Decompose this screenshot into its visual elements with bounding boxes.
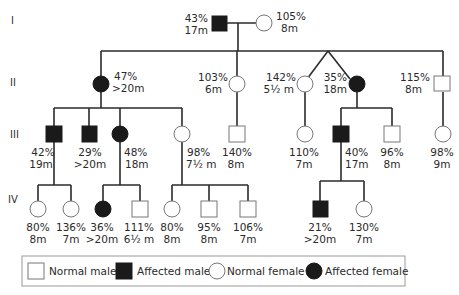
age-label: 7m	[240, 233, 257, 245]
generation-label-III: III	[10, 129, 19, 140]
affected-male-symbol	[333, 126, 349, 142]
individual-II-3: 142% 5½ m	[264, 71, 313, 95]
legend: Normal male Affected male Normal female …	[22, 256, 408, 286]
individual-IV-2: 136% 7m	[56, 201, 86, 245]
normal-female-symbol	[356, 201, 372, 217]
individual-III-3: 48% 18m	[112, 126, 149, 170]
percent-label: 42%	[31, 146, 54, 158]
affected-male-symbol	[46, 126, 62, 142]
individual-III-5: 140% 8m	[222, 126, 252, 170]
percent-label: 105%	[276, 10, 306, 22]
percent-label: 110%	[289, 146, 319, 158]
percent-label: 103%	[198, 71, 228, 83]
individual-II-2: 103% 6m	[198, 71, 245, 95]
percent-label: 21%	[308, 221, 331, 233]
percent-label: 48%	[124, 146, 147, 158]
percent-label: 136%	[56, 221, 86, 233]
normal-female-legend-icon	[209, 263, 225, 279]
age-label: 6½ m	[124, 233, 154, 245]
age-label: >20m	[86, 233, 118, 245]
percent-label: 115%	[400, 71, 430, 83]
individual-II-4: 35% 18m	[323, 71, 365, 95]
percent-label: 142%	[266, 71, 296, 83]
percent-label: 80%	[26, 221, 49, 233]
age-label: >20m	[304, 233, 336, 245]
normal-male-symbol	[229, 126, 245, 142]
normal-male-legend-icon	[28, 263, 44, 279]
affected-male-legend-icon	[116, 263, 132, 279]
percent-label: 130%	[349, 221, 379, 233]
normal-female-symbol	[174, 126, 190, 142]
age-label: 8m	[405, 83, 422, 95]
normal-female-symbol	[30, 201, 46, 217]
affected-female-symbol	[112, 126, 128, 142]
age-label: 7m	[296, 158, 313, 170]
normal-male-symbol	[384, 126, 400, 142]
affected-female-symbol	[349, 76, 365, 92]
affected-female-symbol	[95, 201, 111, 217]
percent-label: 140%	[222, 146, 252, 158]
normal-female-symbol	[435, 126, 451, 142]
affected-female-legend-icon	[306, 263, 322, 279]
percent-label: 98%	[187, 146, 210, 158]
affected-male-symbol	[82, 126, 97, 142]
pedigree-lines	[38, 23, 443, 201]
percent-label: 40%	[345, 146, 368, 158]
percent-label: 43%	[185, 12, 208, 24]
individual-IV-3: 36% >20m	[86, 201, 118, 245]
individual-III-8: 96% 8m	[380, 126, 403, 170]
normal-female-symbol	[229, 76, 245, 92]
individual-IV-9: 130% 7m	[349, 201, 379, 245]
individual-I-2: 105% 8m	[256, 10, 306, 34]
affected-female-symbol	[93, 76, 109, 92]
age-label: 9m	[434, 158, 451, 170]
percent-label: 96%	[380, 146, 403, 158]
age-label: 8m	[164, 233, 181, 245]
individual-III-1: 42% 19m	[29, 126, 62, 170]
age-label: 5½ m	[264, 83, 294, 95]
age-label: 8m	[281, 22, 298, 34]
age-label: 18m	[125, 158, 149, 170]
individual-III-4: 98% 7½ m	[174, 126, 216, 170]
age-label: >20m	[74, 158, 106, 170]
percent-label: 80%	[160, 221, 183, 233]
individual-IV-5: 80% 8m	[160, 201, 183, 245]
normal-female-symbol	[297, 76, 313, 92]
legend-normal-female: Normal female	[227, 265, 305, 277]
affected-male-symbol	[313, 201, 328, 217]
normal-male-symbol	[201, 201, 217, 217]
legend-normal-male: Normal male	[49, 265, 116, 277]
individual-IV-8: 21% >20m	[304, 201, 336, 245]
individual-III-9: 98% 9m	[430, 126, 453, 170]
normal-female-symbol	[297, 126, 313, 142]
normal-male-symbol	[132, 201, 148, 217]
percent-label: 36%	[90, 221, 113, 233]
pedigree-diagram: I II III IV	[0, 0, 459, 295]
legend-affected-male: Affected male	[137, 265, 210, 277]
age-label: 18m	[323, 83, 347, 95]
age-label: 8m	[384, 158, 401, 170]
individual-IV-4: 111% 6½ m	[124, 201, 154, 245]
individual-III-2: 29% >20m	[74, 126, 106, 170]
generation-label-II: II	[10, 77, 16, 88]
individual-I-1: 43% 17m	[184, 12, 227, 36]
normal-male-symbol	[434, 76, 450, 91]
normal-female-symbol	[256, 15, 272, 31]
age-label: 7½ m	[186, 158, 216, 170]
individual-III-7: 40% 17m	[333, 126, 369, 170]
individual-IV-7: 106% 7m	[233, 201, 263, 245]
normal-female-symbol	[63, 201, 79, 217]
normal-female-symbol	[164, 201, 180, 217]
age-label: 6m	[205, 83, 222, 95]
age-label: 17m	[184, 24, 208, 36]
individual-IV-1: 80% 8m	[26, 201, 49, 245]
age-label: 8m	[228, 158, 245, 170]
legend-affected-female: Affected female	[325, 265, 408, 277]
individual-IV-6: 95% 8m	[197, 201, 220, 245]
percent-label: 98%	[430, 146, 453, 158]
percent-label: 29%	[78, 146, 101, 158]
age-label: 8m	[201, 233, 218, 245]
percent-label: 111%	[124, 221, 154, 233]
age-label: 7m	[63, 233, 80, 245]
percent-label: 95%	[197, 221, 220, 233]
